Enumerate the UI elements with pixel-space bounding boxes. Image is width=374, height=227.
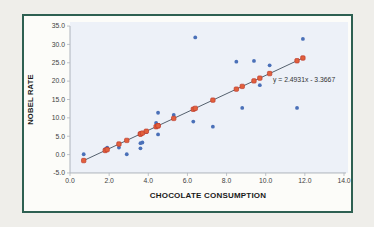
y-tick-label: 25.0 — [52, 59, 65, 66]
predicted-point[interactable] — [172, 116, 176, 120]
actual-point[interactable] — [156, 132, 160, 136]
actual-point[interactable] — [156, 111, 160, 115]
predicted-point[interactable] — [81, 158, 85, 162]
y-tick-label: 0.0 — [56, 151, 66, 158]
actual-point[interactable] — [141, 141, 145, 145]
actual-point[interactable] — [139, 146, 143, 150]
predicted-point[interactable] — [144, 129, 148, 133]
actual-point[interactable] — [82, 152, 86, 156]
actual-point[interactable] — [211, 125, 215, 129]
actual-point[interactable] — [240, 106, 244, 110]
x-tick-label: 14.0 — [337, 177, 350, 184]
y-tick-label: 20.0 — [52, 77, 65, 84]
predicted-point[interactable] — [234, 87, 238, 91]
y-tick-label: 10.0 — [52, 114, 65, 121]
x-tick-label: 6.0 — [183, 177, 193, 184]
actual-point[interactable] — [295, 106, 299, 110]
x-tick-label: 12.0 — [298, 177, 311, 184]
y-tick-label: 15.0 — [52, 96, 65, 103]
actual-point[interactable] — [191, 120, 195, 124]
y-tick-label: -5.0 — [53, 169, 65, 176]
actual-point[interactable] — [252, 59, 256, 63]
trendline-equation: y = 2.4931x - 3.3667 — [273, 76, 335, 84]
screenshot-root: { "window": { "background_color": "#efee… — [0, 0, 374, 227]
predicted-point[interactable] — [240, 84, 244, 88]
x-tick-label: 2.0 — [104, 177, 114, 184]
y-tick-label: 35.0 — [52, 22, 65, 29]
x-tick-label: 0.0 — [65, 177, 75, 184]
y-axis-title: NOBEL RATE — [26, 74, 35, 125]
y-tick-label: 5.0 — [56, 133, 66, 140]
actual-point[interactable] — [268, 63, 272, 67]
actual-point[interactable] — [301, 37, 305, 41]
y-tick-label: 30.0 — [52, 41, 65, 48]
plot-area — [70, 22, 348, 173]
chart-object[interactable]: -5.00.05.010.015.020.025.030.035.00.02.0… — [22, 14, 353, 213]
predicted-point[interactable] — [156, 124, 160, 128]
predicted-point[interactable] — [125, 138, 129, 142]
x-axis-title: CHOCOLATE CONSUMPTION — [150, 191, 267, 200]
predicted-point[interactable] — [295, 59, 299, 63]
actual-point[interactable] — [193, 36, 197, 40]
predicted-point[interactable] — [252, 79, 256, 83]
predicted-point[interactable] — [267, 71, 271, 75]
actual-point[interactable] — [234, 60, 238, 64]
plot-layer: -5.00.05.010.015.020.025.030.035.00.02.0… — [52, 22, 351, 184]
predicted-point[interactable] — [105, 147, 109, 151]
x-tick-label: 8.0 — [222, 177, 232, 184]
x-tick-label: 10.0 — [259, 177, 272, 184]
scatter-chart: -5.00.05.010.015.020.025.030.035.00.02.0… — [24, 16, 351, 211]
x-tick-label: 4.0 — [144, 177, 154, 184]
predicted-point[interactable] — [301, 56, 305, 60]
actual-point[interactable] — [258, 83, 262, 87]
predicted-point[interactable] — [117, 142, 121, 146]
predicted-point[interactable] — [211, 98, 215, 102]
predicted-point[interactable] — [258, 76, 262, 80]
predicted-point[interactable] — [193, 106, 197, 110]
actual-point[interactable] — [125, 152, 129, 156]
